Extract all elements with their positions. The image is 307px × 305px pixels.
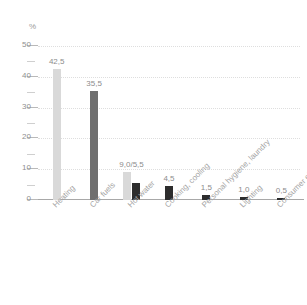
y-axis-tick-label: 10 — [10, 163, 31, 172]
y-axis-unit-label: % — [29, 22, 36, 31]
y-axis-tick-label: 50 — [10, 40, 31, 49]
bar-value-label: 4,5 — [163, 174, 174, 183]
y-axis-tick-label: 40 — [10, 71, 31, 80]
bar-chart: % 0102030405042,535,59,0/5,54,51,51,00,5… — [0, 0, 307, 305]
y-minor-tick — [27, 92, 35, 93]
bar-value-label: 42,5 — [49, 57, 65, 66]
bar[interactable] — [53, 69, 61, 200]
bar-value-label: 35,5 — [86, 79, 102, 88]
y-axis-tick-label: 20 — [10, 132, 31, 141]
y-minor-tick — [27, 154, 35, 155]
y-minor-tick — [27, 185, 35, 186]
gridline — [38, 46, 300, 47]
bar[interactable] — [90, 91, 98, 200]
y-axis-tick-label: 0 — [10, 194, 31, 203]
gridline — [38, 77, 300, 78]
bar[interactable] — [123, 172, 131, 200]
y-minor-tick — [27, 61, 35, 62]
plot-area: 0102030405042,535,59,0/5,54,51,51,00,5 — [38, 46, 300, 200]
bar-value-label: 9,0/5,5 — [119, 160, 143, 169]
y-minor-tick — [27, 123, 35, 124]
bar-group: 42,5 — [38, 69, 75, 200]
y-axis-tick-label: 30 — [10, 102, 31, 111]
